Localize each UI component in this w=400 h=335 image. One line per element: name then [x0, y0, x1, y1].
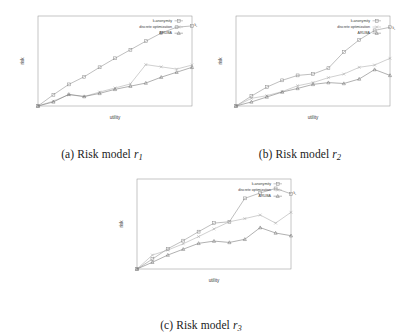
legend-label-discrete-optimization: discrete optimization: [139, 25, 172, 29]
plot-frame: [38, 16, 192, 106]
series-line-discrete-optimization: [38, 65, 192, 106]
series-line-aruba: [38, 67, 192, 106]
series-line-aruba: [137, 228, 291, 269]
legend-label-aruba: ARUBA: [160, 31, 173, 35]
caption-a-index: (a): [61, 148, 74, 160]
x-axis-label: utility: [209, 278, 220, 283]
caption-c-index: (c): [160, 319, 173, 331]
annotation-k-f: kf: [393, 26, 396, 31]
line-chart-b: riskutilitykfk-anonymitydiscrete optimiz…: [202, 2, 398, 128]
legend-label-k-anonymity: k-anonymity: [153, 19, 173, 23]
series-line-aruba: [236, 70, 390, 106]
plot-area-a: riskutilitykfk-anonymitydiscrete optimiz…: [4, 2, 200, 128]
legend-label-discrete-optimization: discrete optimization: [238, 188, 271, 192]
y-axis-label: risk: [20, 57, 25, 65]
chart-panel-c: riskutilitykfk-anonymitydiscrete optimiz…: [103, 165, 299, 333]
series-markers-k-anonymity: [235, 26, 392, 108]
x-axis-label: utility: [110, 115, 121, 120]
figure-risk-models: riskutilitykfk-anonymitydiscrete optimiz…: [0, 0, 400, 335]
plot-frame: [137, 179, 291, 269]
caption-a: (a) Risk model r1: [4, 148, 200, 162]
y-axis-label: risk: [119, 220, 124, 228]
data-point: [151, 254, 154, 257]
caption-c: (c) Risk model r3: [103, 319, 299, 333]
series-markers-aruba: [36, 66, 193, 108]
caption-b-index: (b): [259, 148, 273, 160]
series-line-discrete-optimization: [137, 212, 291, 269]
plot-area-c: riskutilitykfk-anonymitydiscrete optimiz…: [103, 165, 299, 291]
legend-label-aruba: ARUBA: [259, 194, 272, 198]
annotation-k-f: kf: [294, 191, 297, 196]
line-chart-c: riskutilitykfk-anonymitydiscrete optimiz…: [103, 165, 299, 291]
caption-b: (b) Risk model r2: [202, 148, 398, 162]
series-line-k-anonymity: [236, 27, 390, 106]
legend-label-discrete-optimization: discrete optimization: [337, 25, 370, 29]
caption-b-sub: 2: [337, 152, 341, 162]
data-point: [182, 242, 185, 245]
data-point: [213, 228, 216, 231]
series-markers-k-anonymity: [37, 24, 194, 107]
series-markers-aruba: [135, 226, 292, 270]
annotation-k-f: kf: [195, 23, 198, 28]
y-axis-label: risk: [218, 57, 223, 65]
plot-area-b: riskutilitykfk-anonymitydiscrete optimiz…: [202, 2, 398, 128]
caption-c-text: Risk model: [176, 319, 230, 331]
chart-panel-b: riskutilitykfk-anonymitydiscrete optimiz…: [202, 2, 398, 162]
series-markers-discrete-optimization: [37, 63, 194, 107]
legend-label-aruba: ARUBA: [358, 31, 371, 35]
caption-b-text: Risk model: [276, 148, 330, 160]
x-axis-label: utility: [308, 115, 319, 120]
series-line-discrete-optimization: [236, 58, 390, 106]
data-point: [197, 235, 200, 238]
legend-label-k-anonymity: k-anonymity: [252, 182, 272, 186]
line-chart-a: riskutilitykfk-anonymitydiscrete optimiz…: [4, 2, 200, 128]
caption-a-sub: 1: [138, 152, 142, 162]
data-point: [274, 222, 277, 225]
series-line-k-anonymity: [38, 26, 192, 106]
legend-label-k-anonymity: k-anonymity: [351, 19, 371, 23]
caption-a-text: Risk model: [77, 148, 131, 160]
chart-panel-a: riskutilitykfk-anonymitydiscrete optimiz…: [4, 2, 200, 162]
plot-frame: [236, 16, 390, 106]
caption-c-sub: 3: [237, 323, 241, 333]
